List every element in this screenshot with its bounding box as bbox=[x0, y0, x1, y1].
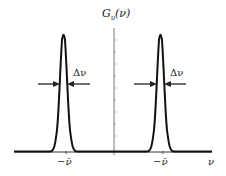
width-label-left: Δν bbox=[73, 67, 86, 78]
right-linewidth-arrows bbox=[134, 81, 186, 87]
right-peak-curve bbox=[77, 35, 212, 152]
x-tick-label-left: −ν̄ bbox=[57, 156, 71, 167]
x-axis-label: ν bbox=[208, 156, 214, 167]
spectral-density-chart: Gυ(ν) Δν Δν −ν̄ −ν̄ ν bbox=[0, 0, 226, 176]
y-axis-label: Gυ(ν) bbox=[102, 7, 130, 22]
left-peak-curve bbox=[14, 35, 77, 152]
width-label-right: Δν bbox=[170, 67, 183, 78]
left-linewidth-arrows bbox=[38, 81, 90, 87]
x-tick-label-right: −ν̄ bbox=[153, 156, 167, 167]
